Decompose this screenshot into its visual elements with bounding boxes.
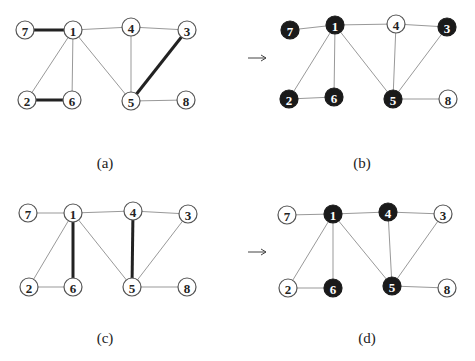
node-6: 6 bbox=[64, 278, 82, 296]
graph-figure: 71432658(a)71432658(b)71432658(c)7143265… bbox=[0, 0, 475, 361]
node-8: 8 bbox=[439, 90, 457, 108]
edge-1-5 bbox=[333, 214, 392, 286]
edge-4-5 bbox=[132, 211, 133, 287]
panel-d: 71432658(d) bbox=[278, 203, 456, 347]
node-6: 6 bbox=[324, 279, 342, 297]
panel-caption: (d) bbox=[358, 330, 376, 347]
node-label: 5 bbox=[389, 280, 396, 295]
node-label: 8 bbox=[183, 94, 190, 109]
edge-1-5 bbox=[73, 30, 131, 101]
node-5: 5 bbox=[383, 277, 401, 295]
node-label: 4 bbox=[385, 206, 392, 221]
panel-b: 71432658(b) bbox=[280, 15, 457, 172]
node-label: 1 bbox=[70, 207, 77, 222]
node-label: 7 bbox=[22, 24, 29, 39]
node-8: 8 bbox=[178, 278, 196, 296]
node-3: 3 bbox=[434, 205, 452, 223]
edge-1-6 bbox=[72, 30, 73, 100]
transition-arrow-icon bbox=[248, 249, 266, 255]
node-label: 5 bbox=[390, 93, 397, 108]
node-4: 4 bbox=[379, 203, 397, 221]
node-label: 3 bbox=[440, 208, 447, 223]
node-1: 1 bbox=[64, 204, 82, 222]
node-label: 1 bbox=[70, 24, 77, 39]
node-2: 2 bbox=[20, 278, 38, 296]
node-2: 2 bbox=[280, 90, 298, 108]
node-label: 7 bbox=[287, 24, 294, 39]
edge-4-5 bbox=[388, 212, 392, 286]
node-label: 7 bbox=[25, 207, 32, 222]
edge-1-2 bbox=[288, 214, 333, 288]
node-1: 1 bbox=[326, 16, 344, 34]
panel-caption: (a) bbox=[97, 155, 114, 172]
transition-arrow-icon bbox=[248, 55, 266, 61]
node-2: 2 bbox=[18, 91, 36, 109]
node-7: 7 bbox=[278, 206, 296, 224]
node-label: 3 bbox=[185, 208, 192, 223]
node-label: 3 bbox=[444, 21, 451, 36]
node-label: 4 bbox=[130, 205, 137, 220]
edge-1-2 bbox=[29, 213, 73, 287]
node-label: 6 bbox=[330, 282, 337, 297]
edge-3-5 bbox=[132, 214, 188, 287]
node-label: 6 bbox=[69, 94, 76, 109]
node-label: 5 bbox=[128, 95, 135, 110]
edge-3-5 bbox=[393, 27, 447, 99]
node-label: 6 bbox=[70, 281, 77, 296]
node-label: 6 bbox=[331, 91, 338, 106]
edge-1-5 bbox=[335, 25, 393, 99]
node-5: 5 bbox=[384, 90, 402, 108]
node-7: 7 bbox=[19, 204, 37, 222]
node-label: 3 bbox=[184, 24, 191, 39]
node-label: 8 bbox=[444, 282, 451, 297]
node-label: 5 bbox=[129, 281, 136, 296]
node-8: 8 bbox=[177, 91, 195, 109]
panel-caption: (c) bbox=[97, 330, 114, 347]
node-label: 2 bbox=[26, 281, 33, 296]
node-label: 1 bbox=[330, 208, 337, 223]
panel-a: 71432658(a) bbox=[16, 18, 196, 172]
node-7: 7 bbox=[281, 21, 299, 39]
edge-4-5 bbox=[393, 24, 396, 99]
panel-c: 71432658(c) bbox=[19, 202, 197, 347]
node-label: 1 bbox=[332, 19, 339, 34]
node-label: 2 bbox=[286, 93, 293, 108]
node-1: 1 bbox=[64, 21, 82, 39]
node-5: 5 bbox=[122, 92, 140, 110]
node-8: 8 bbox=[438, 279, 456, 297]
node-3: 3 bbox=[178, 21, 196, 39]
node-4: 4 bbox=[124, 202, 142, 220]
node-label: 2 bbox=[285, 282, 292, 297]
node-3: 3 bbox=[438, 18, 456, 36]
node-6: 6 bbox=[63, 91, 81, 109]
node-7: 7 bbox=[16, 21, 34, 39]
edge-1-2 bbox=[27, 30, 73, 100]
node-label: 4 bbox=[128, 21, 135, 36]
edge-1-5 bbox=[73, 213, 132, 287]
edge-3-5 bbox=[392, 214, 443, 286]
node-6: 6 bbox=[325, 88, 343, 106]
node-3: 3 bbox=[179, 205, 197, 223]
node-label: 7 bbox=[284, 209, 291, 224]
panel-caption: (b) bbox=[353, 155, 371, 172]
node-label: 8 bbox=[445, 93, 452, 108]
node-4: 4 bbox=[387, 15, 405, 33]
node-1: 1 bbox=[324, 205, 342, 223]
node-label: 8 bbox=[184, 281, 191, 296]
edge-3-5 bbox=[131, 30, 187, 101]
node-4: 4 bbox=[122, 18, 140, 36]
edge-1-6 bbox=[334, 25, 335, 97]
node-label: 4 bbox=[393, 18, 400, 33]
node-2: 2 bbox=[279, 279, 297, 297]
node-5: 5 bbox=[123, 278, 141, 296]
node-label: 2 bbox=[24, 94, 31, 109]
